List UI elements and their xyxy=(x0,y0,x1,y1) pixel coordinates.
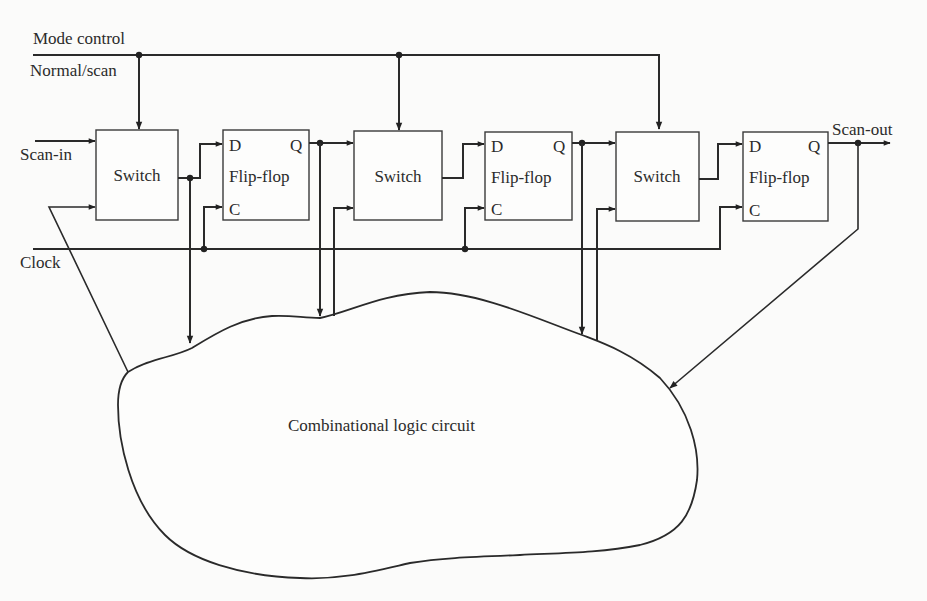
ff3-d-pin: D xyxy=(749,137,761,156)
ff1-label: Flip-flop xyxy=(229,167,289,186)
mode-control-line xyxy=(33,55,659,129)
combinational-logic-label: Combinational logic circuit xyxy=(288,416,475,435)
ff2-d-pin: D xyxy=(491,137,503,156)
ff1-c-pin: C xyxy=(229,200,240,219)
junction-dot xyxy=(396,52,402,58)
ff3-label: Flip-flop xyxy=(749,168,809,187)
ff2-c-pin: C xyxy=(491,200,502,219)
normal-scan-label: Normal/scan xyxy=(30,61,117,80)
clock-to-ff2 xyxy=(465,208,484,249)
switch-2-label: Switch xyxy=(374,167,422,186)
clock-to-ff1 xyxy=(204,207,222,249)
ff3-c-pin: C xyxy=(749,201,760,220)
switch2-to-ff2-d xyxy=(442,144,484,178)
ff1-d-pin: D xyxy=(229,136,241,155)
scan-out-label: Scan-out xyxy=(832,120,893,139)
junction-dot xyxy=(136,52,142,58)
ff1-q-pin: Q xyxy=(290,136,302,155)
switch-3-label: Switch xyxy=(633,167,681,186)
junction-dot xyxy=(187,175,193,181)
junction-dot xyxy=(462,246,468,252)
switch3-to-ff3-d xyxy=(699,144,742,179)
scan-chain-diagram: Combinational logic circuit Mode control… xyxy=(0,0,927,601)
ff3-q-pin: Q xyxy=(808,137,820,156)
switch1-to-ff1-d xyxy=(178,144,222,178)
ff2-label: Flip-flop xyxy=(491,168,551,187)
scan-in-label: Scan-in xyxy=(20,145,72,164)
diagram-canvas: Combinational logic circuit Mode control… xyxy=(0,0,927,601)
cloud-to-switch2 xyxy=(334,208,353,316)
cloud-to-switch1 xyxy=(49,207,128,372)
cloud-to-switch3 xyxy=(597,209,615,340)
switch-1-label: Switch xyxy=(113,166,161,185)
clock-label: Clock xyxy=(20,253,61,272)
combinational-logic-cloud xyxy=(118,292,698,578)
ff2-q-pin: Q xyxy=(553,137,565,156)
junction-dot xyxy=(201,246,207,252)
mode-control-label: Mode control xyxy=(33,29,125,48)
